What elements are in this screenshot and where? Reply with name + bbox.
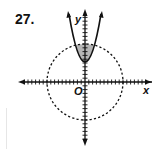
parabola-right-arrow: [99, 11, 104, 18]
y-axis: [83, 9, 88, 146]
parabola-left-arrow: [67, 11, 72, 18]
y-axis-up-arrow: [83, 9, 88, 16]
graph: x y O: [0, 0, 158, 149]
y-axis-label: y: [74, 13, 82, 25]
origin-label: O: [74, 85, 83, 97]
y-axis-down-arrow: [83, 139, 88, 146]
x-axis-label: x: [142, 84, 150, 96]
